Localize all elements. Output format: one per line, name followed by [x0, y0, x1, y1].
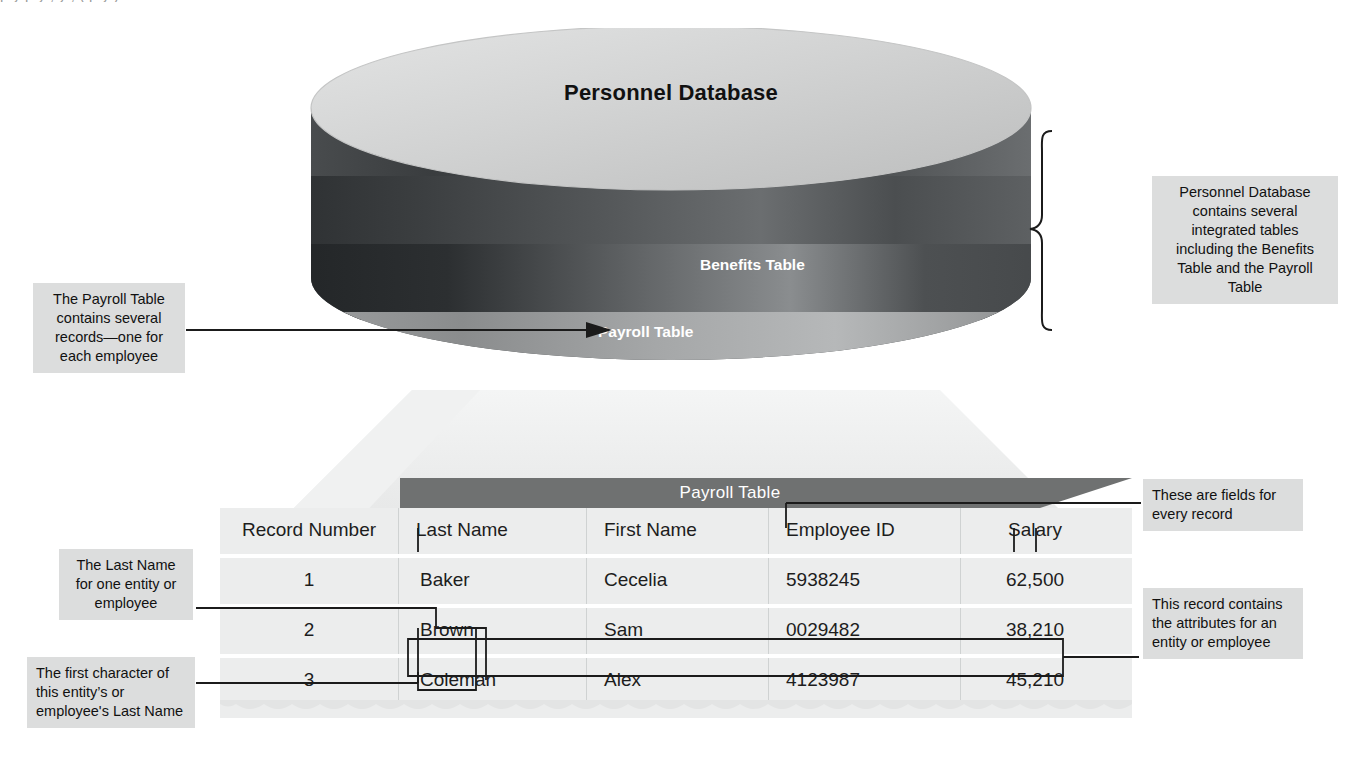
row-divider	[220, 604, 1132, 608]
table-cell-last-name: Brown	[420, 610, 474, 650]
table-cell-salary: 38,210	[960, 610, 1110, 650]
table-cell-last-name: Baker	[420, 560, 470, 600]
row-divider	[220, 554, 1132, 558]
table-cell-record: 1	[220, 560, 398, 600]
table-cell-first-name: Alex	[604, 660, 641, 700]
band-label-benefits: Benefits Table	[700, 256, 805, 274]
table-cell-record: 2	[220, 610, 398, 650]
table-cell-record: 3	[220, 660, 398, 700]
callout-fields-every-record: These are fields for every record	[1143, 479, 1303, 531]
callout-first-character: The first character of this entity’s or …	[27, 657, 195, 728]
torn-paper-edge	[220, 700, 1132, 716]
table-cell-employee-id: 5938245	[786, 560, 860, 600]
cutoff-text-above: p y p y , y , ( p y )	[0, 0, 1352, 2]
callout-payroll-records: The Payroll Table contains several recor…	[33, 283, 185, 373]
database-cylinder: Personnel Database Benefits Table Payrol…	[308, 28, 1034, 400]
table-cell-first-name: Sam	[604, 610, 643, 650]
cylinder-title: Personnel Database	[308, 80, 1034, 106]
column-header: First Name	[604, 510, 697, 550]
table-header-label: Payroll Table	[400, 478, 1060, 508]
table-cell-employee-id: 4123987	[786, 660, 860, 700]
column-header: Last Name	[416, 510, 508, 550]
table-cell-employee-id: 0029482	[786, 610, 860, 650]
table-cell-salary: 62,500	[960, 560, 1110, 600]
table-cell-salary: 45,210	[960, 660, 1110, 700]
callout-last-name-entity: The Last Name for one entity or employee	[59, 549, 193, 620]
table-cell-first-name: Cecelia	[604, 560, 667, 600]
column-header: Salary	[960, 510, 1110, 550]
payroll-table: Payroll Table Record Number Last Name Fi…	[220, 508, 1132, 718]
callout-personnel-database: Personnel Database contains several inte…	[1152, 176, 1338, 304]
band-label-payroll: Payroll Table	[598, 323, 693, 341]
table-cell-last-name: Coleman	[420, 660, 496, 700]
figure-canvas: p y p y , y , ( p y )	[0, 0, 1352, 781]
brace-personnel-database	[1030, 131, 1150, 330]
callout-record-attributes: This record contains the attributes for …	[1143, 588, 1303, 659]
column-header: Employee ID	[786, 510, 895, 550]
column-header: Record Number	[220, 510, 398, 550]
row-divider	[220, 654, 1132, 658]
